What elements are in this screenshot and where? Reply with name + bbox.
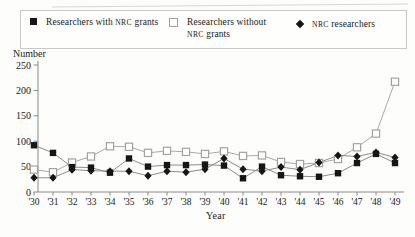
plot-area: 050100150200250'30'31'32'33'34'35'36'37'… [0,0,415,237]
x-tick-label: '34 [104,197,115,207]
data-point [183,162,189,168]
data-point [297,173,303,179]
data-point [50,150,56,156]
data-point [372,130,379,137]
data-point [125,143,132,150]
data-point [220,154,227,162]
x-tick-label: '46 [332,197,343,207]
data-point [201,150,208,157]
y-tick-label: 100 [16,136,31,147]
y-tick-label: 150 [16,110,31,121]
data-point [240,175,246,181]
data-point [335,170,341,176]
x-tick-label: '32 [66,197,77,207]
x-tick-label: '38 [180,197,191,207]
x-tick-label: '44 [294,197,305,207]
data-point [353,144,360,151]
x-tick-label: '35 [123,197,134,207]
data-point [182,148,189,155]
x-tick-label: '36 [142,197,153,207]
data-point [145,163,151,169]
data-point [144,172,151,180]
data-point [391,78,398,85]
data-point [30,174,37,182]
data-point [258,152,265,159]
x-tick-label: '37 [161,197,172,207]
x-tick-label: '45 [313,197,324,207]
data-point [30,166,37,173]
data-point [163,147,170,154]
data-point [239,152,246,159]
data-point [354,160,360,166]
y-tick-label: 250 [16,60,31,71]
data-point [220,148,227,155]
data-point [125,167,132,175]
x-tick-label: '43 [275,197,286,207]
data-point [87,153,94,160]
x-tick-label: '48 [370,197,381,207]
data-point [221,162,227,168]
data-point [182,168,189,176]
data-point [316,174,322,180]
data-point [163,167,170,175]
chart-figure: Researchers with NRC grants Researchers … [0,0,415,237]
x-axis-title: Year [206,210,226,221]
data-point [31,142,37,148]
x-tick-label: '33 [85,197,96,207]
x-tick-label: '39 [199,197,210,207]
data-point [239,165,246,173]
data-point [144,149,151,156]
x-tick-label: '31 [47,197,58,207]
x-tick-label: '40 [218,197,229,207]
data-point [126,155,132,161]
x-tick-label: '42 [256,197,267,207]
y-tick-label: 200 [16,85,31,96]
x-tick-label: '47 [351,197,362,207]
data-point [278,172,284,178]
x-tick-label: '41 [237,197,248,207]
x-tick-label: '49 [389,197,400,207]
y-tick-label: 50 [21,161,31,172]
data-point [106,143,113,150]
data-point [353,152,360,160]
x-tick-label: '30 [28,197,39,207]
